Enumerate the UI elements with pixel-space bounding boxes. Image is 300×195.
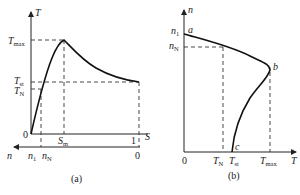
s-axis-label-a: S (145, 131, 150, 142)
caption-b: (b) (228, 170, 240, 182)
point-b-label: b (273, 61, 278, 72)
panel-a: T Tmax Tst TN 0 Sm 1 S n n1 nN 0 (a) (7, 7, 150, 185)
mechanical-characteristic-curve-b (184, 34, 270, 152)
torque-curve-a (31, 40, 139, 134)
tmax-label-b: Tmax (260, 155, 278, 167)
point-c-label: c (235, 141, 240, 152)
panel-b: n n1 nN a b c 0 TN Tst Tmax T (b) (169, 4, 298, 182)
nn-label-b: nN (169, 40, 179, 52)
t-axis-label-b: T (291, 155, 298, 166)
tn-label-b: TN (213, 155, 224, 167)
point-a-label: a (188, 24, 193, 35)
n1-label-a: n1 (28, 150, 36, 162)
sm-label-a: Sm (58, 135, 68, 147)
t-axis-label-a: T (35, 7, 42, 18)
n1-label-b: n1 (171, 25, 179, 37)
n-axis-label-b: n (188, 4, 193, 15)
origin-label-b: 0 (182, 155, 187, 166)
tst-label-b: Tst (229, 155, 239, 167)
torque-speed-diagram: T Tmax Tst TN 0 Sm 1 S n n1 nN 0 (a) n n… (0, 0, 300, 195)
s1-label-a: 1 (131, 135, 136, 146)
caption-a: (a) (71, 173, 82, 185)
n-axis-label-a: n (7, 150, 12, 161)
nn-label-a: nN (42, 150, 52, 162)
origin-label-a: 0 (23, 129, 28, 140)
n0-label-a: 0 (135, 150, 140, 161)
tmax-label-a: Tmax (8, 35, 26, 47)
